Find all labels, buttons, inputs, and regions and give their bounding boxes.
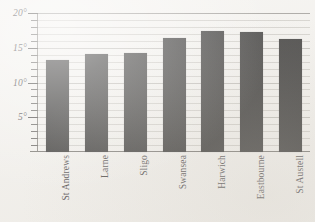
y-axis-label-5: 5°	[18, 112, 27, 122]
bar	[240, 32, 263, 152]
y-tick-19	[31, 20, 38, 21]
y-tick-11	[31, 76, 38, 77]
x-axis-labels: St AndrewsLarneSligoSwanseaHarwichEastbo…	[38, 155, 310, 222]
bar	[279, 39, 302, 152]
y-tick-16	[31, 41, 38, 42]
y-tick-2	[31, 138, 38, 139]
bar	[163, 38, 186, 152]
y-tick-1	[31, 145, 38, 146]
y-axis-label-15: 15°	[13, 43, 27, 53]
y-axis-labels: 20° 15° 10° 5°	[0, 0, 30, 222]
bar	[46, 60, 69, 152]
bar	[85, 54, 108, 152]
y-tick-17	[31, 34, 38, 35]
y-axis-label-10: 10°	[13, 78, 27, 88]
y-tick-8	[31, 96, 38, 97]
bar-chart: 20° 15° 10° 5° St AndrewsLarneSligoSw	[0, 0, 315, 222]
bar	[201, 31, 224, 152]
y-tick-9	[31, 89, 38, 90]
bar-series	[38, 13, 310, 152]
bar	[124, 53, 147, 152]
y-axis-label-20: 20°	[13, 8, 27, 18]
x-axis-label: Swansea	[178, 155, 188, 189]
y-tick-10	[28, 83, 38, 84]
x-axis-label: Sligo	[139, 155, 149, 176]
x-axis-label: St Andrews	[61, 155, 71, 201]
y-tick-20	[28, 13, 38, 14]
x-axis-label: Larne	[100, 155, 110, 178]
y-tick-14	[31, 55, 38, 56]
y-tick-13	[31, 62, 38, 63]
y-tick-18	[31, 27, 38, 28]
y-tick-5	[28, 117, 38, 118]
plot-area	[38, 13, 310, 152]
y-tick-6	[31, 110, 38, 111]
y-tick-3	[31, 131, 38, 132]
y-tick-12	[31, 69, 38, 70]
y-tick-7	[31, 103, 38, 104]
x-axis-label: Eastbourne	[256, 155, 266, 199]
y-tick-15	[28, 48, 38, 49]
y-tick-4	[31, 124, 38, 125]
x-axis-label: St Austell	[295, 155, 305, 194]
x-axis-label: Harwich	[217, 155, 227, 189]
